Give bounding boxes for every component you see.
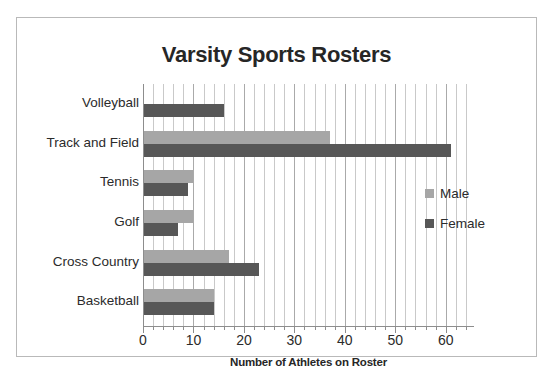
category-axis-labels: VolleyballTrack and FieldTennisGolfCross… bbox=[17, 84, 139, 322]
x-axis-tick bbox=[325, 327, 326, 330]
bar-female-basketball bbox=[143, 302, 214, 315]
x-axis-tick bbox=[183, 327, 184, 330]
category-label-volleyball: Volleyball bbox=[19, 95, 139, 110]
x-axis-tick bbox=[204, 327, 205, 330]
bar-male-basketball bbox=[143, 289, 214, 302]
x-tick-label-40: 40 bbox=[337, 332, 353, 348]
x-axis-tick bbox=[284, 327, 285, 330]
category-label-cross-country: Cross Country bbox=[19, 254, 139, 269]
x-axis-tick bbox=[214, 327, 215, 330]
x-axis-tick bbox=[254, 327, 255, 330]
bar-male-tennis bbox=[143, 170, 193, 183]
bar-male-cross-country bbox=[143, 250, 229, 263]
x-axis-tick bbox=[426, 327, 427, 330]
x-axis-tick bbox=[163, 327, 164, 330]
x-axis-tick bbox=[355, 327, 356, 330]
x-axis-tick bbox=[415, 327, 416, 330]
chart-frame: Varsity Sports Rosters VolleyballTrack a… bbox=[16, 17, 537, 357]
legend-item-female[interactable]: Female bbox=[425, 216, 525, 230]
bar-female-tennis bbox=[143, 183, 188, 196]
x-axis-tick bbox=[315, 327, 316, 330]
legend-swatch-male-icon bbox=[425, 189, 434, 198]
bar-female-track-and-field bbox=[143, 144, 451, 157]
x-axis-tick-labels: 0102030405060 bbox=[17, 332, 553, 352]
x-axis-tick bbox=[173, 327, 174, 330]
legend-label-female: Female bbox=[440, 216, 485, 231]
x-axis-tick bbox=[375, 327, 376, 330]
x-axis-tick bbox=[153, 327, 154, 330]
x-axis-tick bbox=[274, 327, 275, 330]
x-tick-label-20: 20 bbox=[236, 332, 252, 348]
x-axis-tick bbox=[365, 327, 366, 330]
plot-area bbox=[143, 84, 471, 322]
x-tick-label-30: 30 bbox=[287, 332, 303, 348]
x-axis-title: Number of Athletes on Roster bbox=[143, 356, 474, 368]
x-axis-tick bbox=[405, 327, 406, 330]
bar-female-cross-country bbox=[143, 263, 259, 276]
x-axis-tick bbox=[234, 327, 235, 330]
bar-female-volleyball bbox=[143, 104, 224, 117]
bar-female-golf bbox=[143, 223, 178, 236]
x-axis-tick bbox=[224, 327, 225, 330]
bar-male-golf bbox=[143, 210, 193, 223]
legend-swatch-female-icon bbox=[425, 219, 434, 228]
x-tick-label-10: 10 bbox=[186, 332, 202, 348]
category-label-track-and-field: Track and Field bbox=[19, 135, 139, 150]
legend-item-male[interactable]: Male bbox=[425, 186, 525, 200]
x-axis-tick bbox=[436, 327, 437, 330]
x-axis-tick bbox=[304, 327, 305, 330]
x-axis-tick bbox=[456, 327, 457, 330]
x-tick-label-50: 50 bbox=[388, 332, 404, 348]
chart-legend: MaleFemale bbox=[425, 186, 525, 246]
x-axis-tick bbox=[466, 327, 467, 330]
x-axis-tick bbox=[385, 327, 386, 330]
category-label-golf: Golf bbox=[19, 214, 139, 229]
legend-label-male: Male bbox=[440, 186, 469, 201]
x-axis-tick bbox=[264, 327, 265, 330]
bar-male-track-and-field bbox=[143, 131, 330, 144]
x-axis-line bbox=[143, 326, 474, 327]
category-label-tennis: Tennis bbox=[19, 174, 139, 189]
x-tick-label-60: 60 bbox=[438, 332, 454, 348]
y-axis-line bbox=[143, 84, 144, 327]
x-tick-label-0: 0 bbox=[139, 332, 147, 348]
category-label-basketball: Basketball bbox=[19, 293, 139, 308]
x-axis-tick bbox=[335, 327, 336, 330]
